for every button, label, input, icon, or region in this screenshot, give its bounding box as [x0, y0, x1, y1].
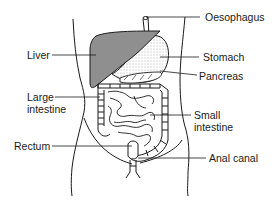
rectum-shape	[126, 141, 140, 178]
label-small-intestine-line1: Small	[194, 109, 220, 121]
label-pancreas: Pancreas	[199, 70, 243, 82]
label-anal-canal: Anal canal	[209, 152, 258, 164]
label-large-intestine-line1: Large	[27, 91, 54, 103]
label-small-intestine-line2: intestine	[194, 121, 233, 133]
small-intestine-shape	[108, 91, 155, 146]
label-stomach: Stomach	[203, 51, 244, 63]
label-oesophagus: Oesophagus	[205, 11, 265, 23]
digestive-system-diagram: Oesophagus Liver Stomach Pancreas Large …	[0, 0, 275, 204]
label-rectum: Rectum	[14, 140, 50, 152]
label-liver: Liver	[27, 49, 50, 61]
label-large-intestine-line2: intestine	[27, 103, 66, 115]
